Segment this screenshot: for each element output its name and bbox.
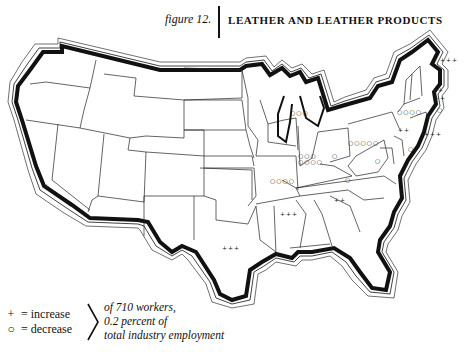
legend-decrease: ○ = decrease	[4, 322, 72, 337]
marker-kentucky: ○	[345, 176, 351, 183]
marker-tennessee: ++	[334, 196, 346, 203]
state-boundaries	[26, 60, 428, 254]
marker-maine: +++	[440, 56, 458, 63]
marker-west-virginia: ○	[375, 157, 381, 164]
marker-massachusetts: ++	[434, 94, 446, 101]
marker-new-jersey: +++	[424, 130, 442, 137]
marker-ohio: ○○○○○	[348, 139, 379, 146]
legend-note-line2: 0.2 percent of	[104, 314, 224, 328]
marker-new-hampshire: ++	[432, 86, 444, 93]
marker-maryland: ○	[408, 145, 414, 152]
plus-icon: +	[4, 307, 18, 322]
marker-california: +	[44, 182, 50, 189]
marker-connecticut: ○	[437, 106, 443, 113]
marker-wisconsin: ○○○	[290, 109, 309, 116]
legend-increase: + = increase	[4, 307, 70, 322]
map-legend: + = increase ○ = decrease of 710 workers…	[4, 300, 304, 352]
legend-note-line3: total industry employment	[104, 328, 224, 342]
legend-decrease-label: = decrease	[21, 322, 72, 336]
legend-increase-label: = increase	[21, 307, 70, 321]
marker-illinois-2: ○○○○	[298, 158, 323, 165]
marker-texas: +++	[222, 244, 240, 251]
marker-missouri: ○○○○	[270, 177, 295, 184]
marker-new-york: ○○○○	[397, 108, 422, 115]
circle-icon: ○	[4, 322, 18, 337]
marker-arkansas: +++	[280, 210, 298, 217]
brace-icon	[86, 302, 100, 342]
legend-note-line1: of 710 workers,	[104, 300, 224, 314]
legend-note: of 710 workers, 0.2 percent of total ind…	[104, 300, 224, 342]
marker-pennsylvania: ++	[398, 126, 410, 133]
marker-indiana: ○	[332, 152, 338, 159]
